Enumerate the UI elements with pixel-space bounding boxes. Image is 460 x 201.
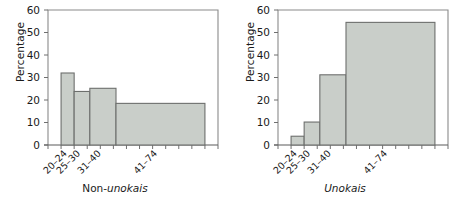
left-bar — [61, 73, 74, 145]
right-bar — [304, 122, 320, 145]
plot-area-right: 010203040506020–2425–3031–4041–74 — [230, 0, 460, 175]
left-ytick-label: 20 — [27, 94, 40, 106]
right-bar — [346, 22, 435, 145]
left-ytick-label: 60 — [27, 4, 40, 16]
left-ytick-label: 30 — [27, 71, 40, 83]
left-bar — [74, 91, 90, 145]
right-ytick-label: 10 — [257, 116, 270, 128]
right-ytick-label: 60 — [257, 4, 270, 16]
panel-caption-right: Unokais — [230, 182, 460, 194]
left-bar — [116, 103, 205, 145]
right-ytick-label: 30 — [257, 71, 270, 83]
left-xtick-label: 31–40 — [75, 148, 103, 175]
panel-caption-left-italic: unokais — [107, 182, 148, 194]
left-ytick-label: 0 — [33, 139, 40, 151]
right-bar — [320, 75, 346, 145]
left-ytick-label: 10 — [27, 116, 40, 128]
right-ytick-label: 40 — [257, 49, 270, 61]
right-xtick-label: 41–74 — [361, 148, 389, 175]
figure-two-histograms: Percentage 010203040506020–2425–3031–404… — [0, 0, 460, 201]
right-ytick-label: 0 — [263, 139, 270, 151]
right-ytick-label: 20 — [257, 94, 270, 106]
panel-caption-right-italic: Unokais — [324, 182, 366, 194]
plot-area-left: 010203040506020–2425–3031–4041–74 — [0, 0, 230, 175]
left-ytick-label: 40 — [27, 49, 40, 61]
left-xtick-label: 41–74 — [131, 148, 159, 175]
chart-panel-non-unokais: Percentage 010203040506020–2425–3031–404… — [0, 0, 230, 201]
right-bar — [291, 136, 304, 145]
panel-caption-left: Non-unokais — [0, 182, 230, 194]
left-ytick-label: 50 — [27, 26, 40, 38]
right-ytick-label: 50 — [257, 26, 270, 38]
right-xtick-label: 31–40 — [305, 148, 333, 175]
chart-panel-unokais: Percentage 010203040506020–2425–3031–404… — [230, 0, 460, 201]
panel-caption-left-plain: Non- — [82, 182, 107, 194]
left-bar — [90, 88, 116, 145]
